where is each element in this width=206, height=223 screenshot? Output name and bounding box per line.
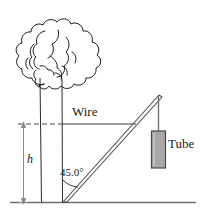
tree-canopy [16, 19, 100, 89]
physics-diagram: Wire Tube 45.0° h [0, 0, 206, 223]
tube-label: Tube [168, 136, 194, 152]
tree-trunk [40, 78, 63, 202]
diagram-canvas [0, 0, 206, 223]
angle-label: 45.0° [60, 166, 84, 178]
angle-arc [63, 180, 78, 187]
wire-label: Wire [72, 104, 97, 120]
height-label: h [27, 152, 33, 167]
